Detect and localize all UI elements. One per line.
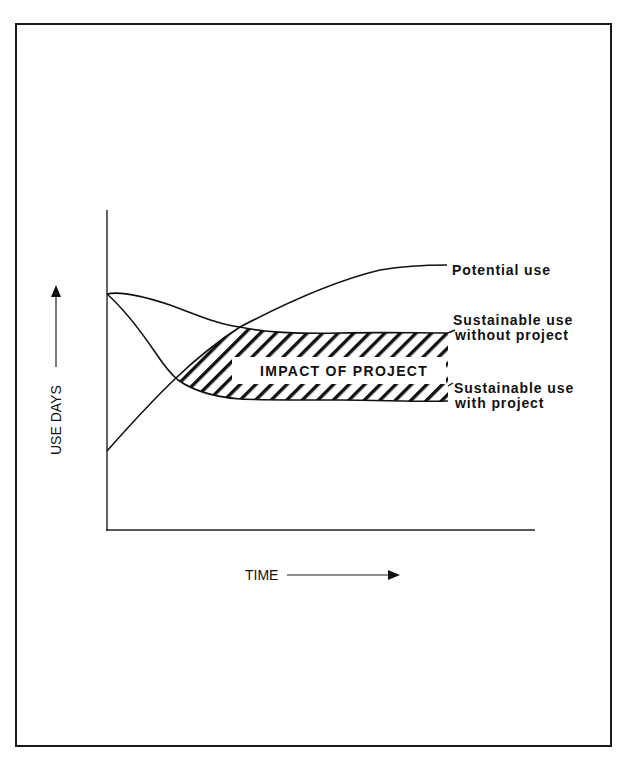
label-with-project-line1: Sustainable use: [454, 380, 574, 396]
impact-of-project-label: IMPACT OF PROJECT: [260, 363, 428, 379]
x-axis-arrow-icon: [287, 570, 400, 580]
without-project-curve: [107, 293, 448, 333]
y-axis-arrow-icon: [51, 285, 61, 367]
label-with-project-line2: with project: [454, 395, 544, 411]
x-axis-label: TIME: [245, 567, 278, 583]
label-potential-use: Potential use: [452, 262, 551, 278]
label-without-project-line1: Sustainable use: [453, 312, 573, 328]
impact-chart: Potential use Sustainable use without pr…: [0, 0, 631, 761]
label-without-project-line2: without project: [454, 327, 569, 343]
leader-without-project: [448, 330, 455, 333]
y-axis-label: USE DAYS: [48, 385, 64, 455]
leader-with-project: [448, 383, 453, 386]
